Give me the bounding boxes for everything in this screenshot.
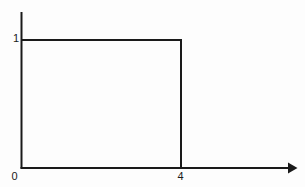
y-axis-tick-label-1: 1 [10, 33, 19, 44]
step-function-figure: 1 0 4 [0, 0, 305, 187]
x-axis-tick-label-4: 4 [175, 171, 186, 182]
plot-canvas [0, 0, 305, 187]
origin-tick-label-0: 0 [10, 171, 19, 182]
step-function-curve [22, 40, 182, 168]
x-axis-arrowhead-icon [288, 163, 298, 174]
